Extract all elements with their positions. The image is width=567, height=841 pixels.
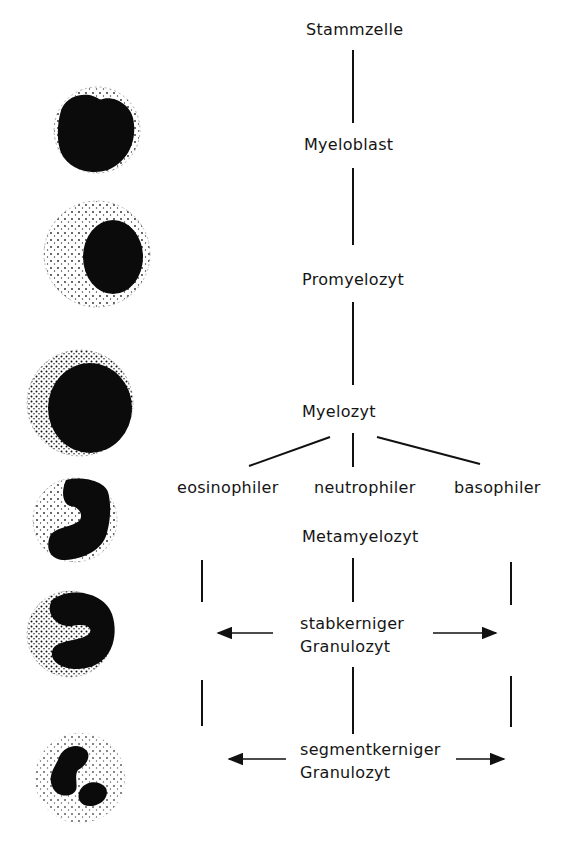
branch-neutrophiler: neutrophiler bbox=[314, 478, 416, 497]
segmented-granulocyte-cell-icon bbox=[35, 733, 125, 823]
diagram-lines bbox=[0, 0, 567, 841]
stage-stabkerniger-line1: stabkerniger bbox=[300, 614, 404, 633]
promyelocyte-cell-icon bbox=[44, 201, 150, 307]
stage-myeloblast: Myeloblast bbox=[304, 135, 393, 154]
band-granulocyte-cell-icon bbox=[27, 591, 115, 677]
stage-stabkerniger-line2: Granulozyt bbox=[300, 637, 390, 656]
metamyelocyte-cell-icon bbox=[33, 478, 117, 562]
myeloblast-cell-icon bbox=[54, 87, 140, 173]
stage-segmentkerniger-line2: Granulozyt bbox=[300, 763, 390, 782]
stage-metamyelozyt: Metamyelozyt bbox=[302, 527, 419, 546]
branch-eosinophiler: eosinophiler bbox=[177, 478, 279, 497]
stage-stammzelle: Stammzelle bbox=[306, 20, 403, 39]
branch-basophiler: basophiler bbox=[454, 478, 541, 497]
stage-segmentkerniger-line1: segmentkerniger bbox=[300, 740, 441, 759]
stage-myelozyt: Myelozyt bbox=[302, 402, 376, 421]
stage-promyelozyt: Promyelozyt bbox=[302, 270, 404, 289]
myelocyte-cell-icon bbox=[27, 350, 133, 456]
